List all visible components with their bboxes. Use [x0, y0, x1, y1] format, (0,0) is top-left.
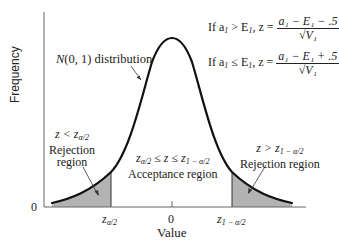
x-tick-z-one-minus-alpha-half: z1 − α/2 [217, 212, 246, 227]
right-rejection-label: z > z1 − α/2 Rejection region [240, 142, 320, 170]
formula-greater: If a1 > E1, z = a₁ − E₁ − .5√V₁ [208, 15, 339, 42]
distribution-label: N(0, 1) distribution [56, 52, 152, 67]
x-axis-label: Value [157, 225, 187, 241]
x-tick-z-alpha-half: zα/2 [102, 212, 117, 227]
x-tick-zero: 0 [168, 212, 174, 227]
y-axis-label: Frequency [8, 46, 22, 103]
left-rejection-label: z < zα/2 Rejection region [49, 128, 95, 168]
y-origin-label: 0 [31, 200, 37, 215]
acceptance-region-label: zα/2 ≤ z ≤ z1 − α/2 Acceptance region [128, 152, 218, 180]
distribution-arrowhead-icon [137, 76, 142, 81]
formula-less-equal: If a1 ≤ E1, z = a₁ − E₁ + .5√V₁ [208, 50, 339, 77]
